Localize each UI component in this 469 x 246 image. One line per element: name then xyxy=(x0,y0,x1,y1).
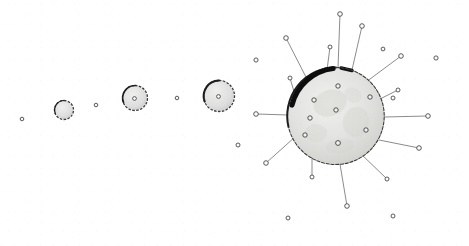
outer-dot-s-left xyxy=(286,216,290,220)
callout-ne-line xyxy=(366,56,401,82)
callout-sse-marker xyxy=(385,177,389,181)
callout-ne-marker xyxy=(399,54,404,59)
surface-marker-8 xyxy=(336,141,341,146)
sphere-3 xyxy=(203,81,234,112)
callout-w-marker xyxy=(254,112,259,117)
surface-marker-6 xyxy=(364,128,368,132)
callout-e-line xyxy=(384,116,428,117)
callout-nw-line xyxy=(286,38,308,81)
outer-dot-nw-far xyxy=(254,58,258,62)
callout-n-marker xyxy=(338,12,343,17)
callout-ese-marker xyxy=(417,146,422,151)
callout-nne-marker xyxy=(360,24,365,29)
field-dot-2 xyxy=(94,103,98,107)
callout-e-marker xyxy=(426,114,431,119)
outer-dot-s-right xyxy=(391,214,395,218)
callout-n-line xyxy=(338,14,340,68)
callout-w-line xyxy=(256,114,288,115)
field-dot-1 xyxy=(20,117,24,121)
outer-dot-e-mid xyxy=(391,96,395,100)
sphere-1-body xyxy=(55,101,73,119)
callout-ese-line xyxy=(379,140,419,148)
outer-dot-ne-far xyxy=(434,56,438,60)
sphere-1 xyxy=(54,101,73,120)
outer-dot-w-mid xyxy=(236,143,240,147)
sphere-3-center-marker xyxy=(217,95,221,99)
callout-nne-line xyxy=(352,26,362,70)
mare-patch-3 xyxy=(305,124,327,142)
surface-marker-1 xyxy=(336,84,340,88)
astronomical-figure xyxy=(0,0,469,246)
surface-marker-2 xyxy=(368,95,372,99)
callout-sw-marker xyxy=(310,175,314,179)
callout-wsw-marker xyxy=(264,161,269,166)
surface-marker-5 xyxy=(308,116,312,120)
field-dot-3 xyxy=(175,96,179,100)
callout-nnw-marker xyxy=(328,45,332,49)
callout-s-marker xyxy=(345,204,350,209)
callout-ene-marker xyxy=(396,88,400,92)
callout-wnw-marker xyxy=(288,76,292,80)
surface-marker-4 xyxy=(334,108,338,112)
callout-s-line xyxy=(340,164,347,206)
callout-nw-marker xyxy=(284,36,289,41)
sphere-2 xyxy=(122,86,147,111)
callout-sse-line xyxy=(360,153,387,179)
surface-marker-3 xyxy=(312,98,316,102)
sphere-2-center-marker xyxy=(133,97,137,101)
callout-wsw-line xyxy=(266,137,295,163)
field-dot-group xyxy=(20,96,179,121)
figure-canvas xyxy=(0,0,469,246)
surface-marker-7 xyxy=(303,133,307,137)
outer-dot-e-far xyxy=(381,47,385,51)
